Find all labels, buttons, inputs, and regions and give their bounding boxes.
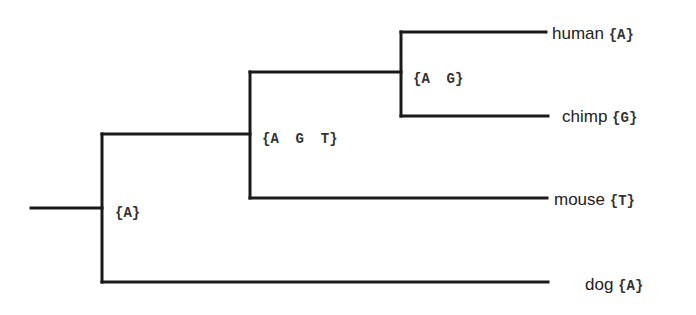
tree-diagram <box>0 0 696 315</box>
node-label-primates-mouse: {A G T} <box>262 132 338 146</box>
leaf-state: {A} <box>609 27 634 43</box>
leaf-label-human: human {A} <box>552 25 634 42</box>
node-label-human-chimp: {A G} <box>413 72 463 86</box>
leaf-label-mouse: mouse {T} <box>554 191 635 208</box>
leaf-label-chimp: chimp {G} <box>562 108 637 125</box>
node-label-root: {A} <box>115 206 140 220</box>
leaf-name: human <box>552 24 604 43</box>
leaf-name: mouse <box>554 190 605 209</box>
leaf-label-dog: dog {A} <box>585 276 643 293</box>
leaf-name: chimp <box>562 107 607 126</box>
leaf-state: {A} <box>618 278 643 294</box>
leaf-state: {T} <box>610 193 635 209</box>
leaf-name: dog <box>585 275 613 294</box>
leaf-state: {G} <box>612 110 637 126</box>
